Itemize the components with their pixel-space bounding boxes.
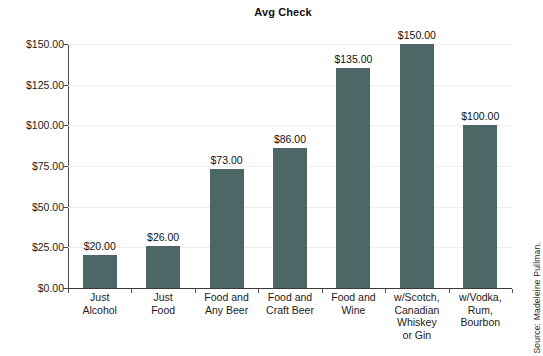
x-axis-category-label: Food andCraft Beer [258, 291, 321, 316]
plot-area: $20.00$26.00$73.00$86.00$135.00$150.00$1… [68, 44, 512, 288]
x-axis-tick-mark [258, 289, 259, 293]
x-axis-baseline [68, 288, 512, 289]
x-axis-tick-mark [449, 289, 450, 293]
y-axis-tick-label: $0.00 [2, 282, 64, 294]
x-axis-category-line: Wine [322, 304, 385, 317]
x-axis-category-line: Food and [322, 291, 385, 304]
x-axis-category-label: Food andWine [322, 291, 385, 316]
bar[interactable] [146, 246, 180, 288]
x-axis-category-line: Craft Beer [258, 304, 321, 317]
x-axis-category-line: Rum, [449, 304, 512, 317]
x-axis-category-line: Just [131, 291, 194, 304]
x-axis-category-label: JustAlcohol [68, 291, 131, 316]
y-axis-tick-label: $25.00 [2, 241, 64, 253]
bar-value-label: $150.00 [398, 29, 436, 41]
x-axis-category-line: Canadian [385, 304, 448, 317]
x-axis-category-label: w/Scotch,CanadianWhiskeyor Gin [385, 291, 448, 341]
bar[interactable] [210, 169, 244, 288]
bar-value-label: $86.00 [274, 133, 306, 145]
y-axis-tick-label: $75.00 [2, 160, 64, 172]
x-axis-category-label: JustFood [131, 291, 194, 316]
x-axis-tick-mark [195, 289, 196, 293]
y-axis-labels: $0.00$25.00$50.00$75.00$100.00$125.00$15… [0, 0, 64, 356]
x-axis-category-line: or Gin [385, 329, 448, 342]
bar-group: $20.00 [68, 44, 131, 288]
x-axis-tick-mark [385, 289, 386, 293]
x-axis-category-line: Food and [195, 291, 258, 304]
bar[interactable] [463, 125, 497, 288]
bar-value-label: $73.00 [210, 154, 242, 166]
source-note: Source: Madeleine Pullman. [532, 242, 542, 354]
bar-group: $26.00 [131, 44, 194, 288]
bar[interactable] [400, 44, 434, 288]
bar-group: $73.00 [195, 44, 258, 288]
x-axis-category-line: Just [68, 291, 131, 304]
bar-value-label: $26.00 [147, 231, 179, 243]
x-axis-category-line: w/Vodka, [449, 291, 512, 304]
bar[interactable] [273, 148, 307, 288]
x-axis-category-line: Any Beer [195, 304, 258, 317]
x-axis-category-line: Bourbon [449, 316, 512, 329]
y-axis-tick-label: $125.00 [2, 79, 64, 91]
x-axis-category-line: Food [131, 304, 194, 317]
x-axis-category-line: Alcohol [68, 304, 131, 317]
x-axis-labels: JustAlcoholJustFoodFood andAny BeerFood … [68, 291, 512, 353]
bar[interactable] [336, 68, 370, 288]
x-axis-category-line: Food and [258, 291, 321, 304]
bar-group: $150.00 [385, 44, 448, 288]
x-axis-category-label: w/Vodka,Rum,Bourbon [449, 291, 512, 329]
x-axis-tick-mark [68, 289, 69, 293]
chart-title: Avg Check [0, 6, 543, 18]
x-axis-tick-mark [512, 289, 513, 293]
bar-group: $100.00 [449, 44, 512, 288]
y-axis-tick-label: $50.00 [2, 201, 64, 213]
bar-group: $135.00 [322, 44, 385, 288]
bar-group: $86.00 [258, 44, 321, 288]
x-axis-tick-mark [131, 289, 132, 293]
y-axis-tick-label: $100.00 [2, 119, 64, 131]
x-axis-tick-mark [322, 289, 323, 293]
x-axis-category-line: Whiskey [385, 316, 448, 329]
x-axis-category-line: w/Scotch, [385, 291, 448, 304]
x-axis-category-label: Food andAny Beer [195, 291, 258, 316]
bar[interactable] [83, 255, 117, 288]
chart-container: Avg Check $0.00$25.00$50.00$75.00$100.00… [0, 0, 543, 356]
bar-value-label: $100.00 [461, 110, 499, 122]
y-axis-tick-label: $150.00 [2, 38, 64, 50]
bar-value-label: $135.00 [334, 53, 372, 65]
bar-value-label: $20.00 [84, 240, 116, 252]
